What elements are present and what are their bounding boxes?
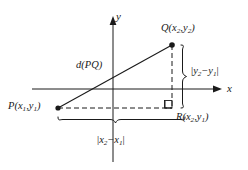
x-axis [32,86,222,93]
point-label-q: Q(x2,y2) [161,23,195,35]
point-dot-p [55,105,60,110]
horizontal-leg-length-label: |x2−x1| [97,134,125,147]
vertical-leg-length-label: |y2−y1| [191,65,219,78]
segment-pq-hypotenuse [58,45,172,108]
distance-formula-diagram: y x Q(x2,y2) P(x1,y1) R(x2,y1) d(PQ) |y2… [0,0,248,170]
horizontal-leg-bar-close: | [123,133,125,145]
x-axis-label: x [227,83,232,94]
point-dot-q [169,42,175,48]
y-axis-label: y [116,11,121,22]
point-label-q-letter: Q [161,22,169,33]
point-label-r: R(x2,y1) [176,112,209,124]
point-label-r-close: ) [205,111,209,122]
horizontal-brace [58,117,185,123]
distance-label-dpq: d(PQ) [76,60,102,71]
vertical-brace [181,45,187,108]
point-label-p-close: ) [37,100,41,111]
vertical-leg-bar-close: | [217,64,219,76]
right-angle-marker-icon [165,101,172,108]
point-label-q-close: ) [191,22,195,33]
point-label-p: P(x1,y1) [8,101,41,113]
